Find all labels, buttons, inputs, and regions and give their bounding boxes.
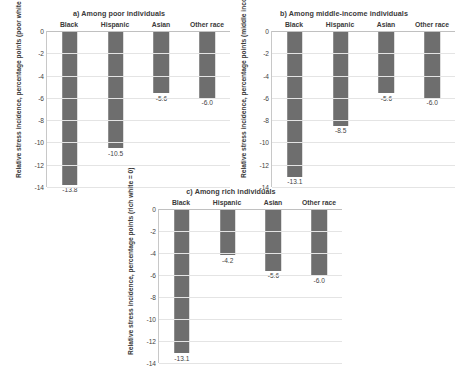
panel-b-category-label: Asian: [363, 19, 409, 31]
bar[interactable]: [266, 209, 282, 271]
bar[interactable]: [199, 31, 215, 98]
yaxis-tick-label: -10: [259, 139, 269, 146]
bar-value-label: -8.5: [335, 126, 346, 135]
panel-b-category-label: Hispanic: [317, 19, 363, 31]
gridline: [159, 341, 342, 342]
panel-b-bars: -13.1-8.5-5.6-6.0: [272, 31, 455, 187]
panel-a-yaxis-ticks: 0-2-4-6-8-10-12-14: [30, 31, 46, 187]
panel-a-yaxis-title-wrap: Relative stress incidence, percentage po…: [8, 19, 30, 187]
bar-slot: -6.0: [409, 31, 455, 187]
yaxis-tick-label: -2: [38, 50, 44, 57]
gridline: [159, 297, 342, 298]
yaxis-tick-label: -12: [146, 338, 156, 345]
panel-c-category-labels: Black Hispanic Asian Other race: [158, 197, 342, 209]
panel-a-category-labels: Black Hispanic Asian Other race: [46, 19, 230, 31]
gridline: [272, 53, 455, 54]
bar-slot: -8.5: [318, 31, 364, 187]
panel-b-yaxis-ticks: 0-2-4-6-8-10-12-14: [255, 31, 271, 187]
panel-b-plot-area: -13.1-8.5-5.6-6.0: [271, 31, 455, 187]
chart-panel-middle-income: b) Among middle-income individuals Relat…: [233, 8, 455, 188]
yaxis-tick-label: 0: [152, 206, 156, 213]
panel-b-yaxis-title: Relative stress incidence, percentage po…: [240, 28, 248, 178]
panel-a-category-label: Asian: [138, 19, 184, 31]
bar[interactable]: [379, 31, 395, 93]
gridline: [47, 120, 230, 121]
panel-c-category-label: Asian: [250, 197, 296, 209]
bar-value-label: -4.2: [222, 256, 233, 265]
bar[interactable]: [108, 31, 124, 148]
gridline: [272, 120, 455, 121]
panel-c-plot-area: -13.1-4.2-5.6-6.0: [158, 209, 342, 363]
panel-c-bars: -13.1-4.2-5.6-6.0: [159, 209, 342, 363]
yaxis-tick-label: -2: [150, 228, 156, 235]
gridline: [159, 319, 342, 320]
panel-c-title: c) Among rich individuals: [120, 186, 342, 197]
yaxis-tick-label: -10: [34, 139, 44, 146]
bar-slot: -6.0: [296, 209, 342, 363]
bar-value-label: -10.5: [108, 149, 123, 158]
bar-slot: -5.6: [139, 31, 185, 187]
yaxis-tick-label: -4: [150, 250, 156, 257]
bar-value-label: -13.1: [174, 354, 189, 363]
panel-a-title: a) Among poor individuals: [8, 8, 230, 19]
bar[interactable]: [220, 209, 236, 255]
panel-c-category-label: Other race: [296, 197, 342, 209]
yaxis-tick-label: -14: [146, 360, 156, 366]
bar-slot: -13.1: [159, 209, 205, 363]
panel-a-plot-area: -13.8-10.5-5.6-6.0: [46, 31, 230, 187]
panel-a-category-label: Other race: [184, 19, 230, 31]
bar-slot: -5.6: [251, 209, 297, 363]
yaxis-tick-label: -12: [259, 161, 269, 168]
gridline: [159, 209, 342, 210]
bar-slot: -6.0: [184, 31, 230, 187]
panel-a-yaxis-title: Relative stress incidence, percentage po…: [15, 28, 23, 178]
gridline: [272, 76, 455, 77]
gridline: [272, 142, 455, 143]
panel-c-yaxis-title: Relative stress incidence, percentage po…: [127, 205, 135, 355]
bar-slot: -13.8: [47, 31, 93, 187]
panel-b-category-labels: Black Hispanic Asian Other race: [271, 19, 455, 31]
gridline: [159, 275, 342, 276]
gridline: [272, 98, 455, 99]
gridline: [272, 165, 455, 166]
chart-panel-poor: a) Among poor individuals Relative stres…: [8, 8, 230, 188]
yaxis-tick-label: -8: [263, 117, 269, 124]
yaxis-tick-label: -6: [263, 94, 269, 101]
panel-c-category-label: Black: [158, 197, 204, 209]
panel-b-yaxis-title-wrap: Relative stress incidence, percentage po…: [233, 19, 255, 187]
yaxis-tick-label: -6: [38, 94, 44, 101]
yaxis-tick-label: -6: [150, 272, 156, 279]
bar-slot: -4.2: [205, 209, 251, 363]
gridline: [159, 231, 342, 232]
bar-slot: -10.5: [93, 31, 139, 187]
bar-slot: -5.6: [364, 31, 410, 187]
bar-value-label: -6.0: [313, 276, 324, 285]
panel-c-category-label: Hispanic: [204, 197, 250, 209]
bar-value-label: -6.0: [201, 98, 212, 107]
yaxis-tick-label: -2: [263, 50, 269, 57]
gridline: [47, 142, 230, 143]
gridline: [159, 253, 342, 254]
panel-c-yaxis-title-wrap: Relative stress incidence, percentage po…: [120, 197, 142, 363]
gridline: [47, 53, 230, 54]
bar[interactable]: [311, 209, 327, 275]
bar[interactable]: [154, 31, 170, 93]
bar[interactable]: [424, 31, 440, 98]
yaxis-tick-label: -10: [146, 316, 156, 323]
yaxis-tick-label: -4: [263, 72, 269, 79]
panel-b-title: b) Among middle-income individuals: [233, 8, 455, 19]
bar[interactable]: [333, 31, 349, 126]
panel-b-category-label: Black: [271, 19, 317, 31]
panel-b-category-label: Other race: [409, 19, 455, 31]
panel-a-category-label: Black: [46, 19, 92, 31]
yaxis-tick-label: 0: [40, 28, 44, 35]
yaxis-tick-label: 0: [265, 28, 269, 35]
yaxis-tick-label: -4: [38, 72, 44, 79]
yaxis-tick-label: -12: [34, 161, 44, 168]
gridline: [159, 363, 342, 364]
panel-c-yaxis-ticks: 0-2-4-6-8-10-12-14: [142, 209, 158, 363]
panel-a-bars: -13.8-10.5-5.6-6.0: [47, 31, 230, 187]
gridline: [47, 31, 230, 32]
gridline: [47, 98, 230, 99]
bar-value-label: -6.0: [426, 98, 437, 107]
